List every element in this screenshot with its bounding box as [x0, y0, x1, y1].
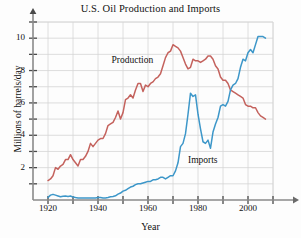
- series-line-production: [48, 45, 266, 181]
- chart-figure: U.S. Oil Production and Imports 19201940…: [0, 0, 301, 238]
- y-axis-arrow-icon: [30, 8, 37, 14]
- x-axis-arrow-icon: [293, 197, 299, 204]
- y-axis-label: Millions of barrels/day: [13, 39, 23, 179]
- x-tick-label: 1940: [78, 203, 118, 213]
- x-tick-label: 1920: [28, 203, 68, 213]
- series-label-imports: Imports: [188, 155, 218, 165]
- series-label-production: Production: [112, 55, 154, 65]
- data-series: [48, 37, 266, 199]
- x-tick-label: 1960: [128, 203, 168, 213]
- x-axis-label: Year: [0, 221, 301, 232]
- gridlines: [33, 22, 273, 200]
- x-tick-label: 2000: [228, 203, 268, 213]
- x-tick-label: 1980: [178, 203, 218, 213]
- series-line-imports: [48, 37, 266, 199]
